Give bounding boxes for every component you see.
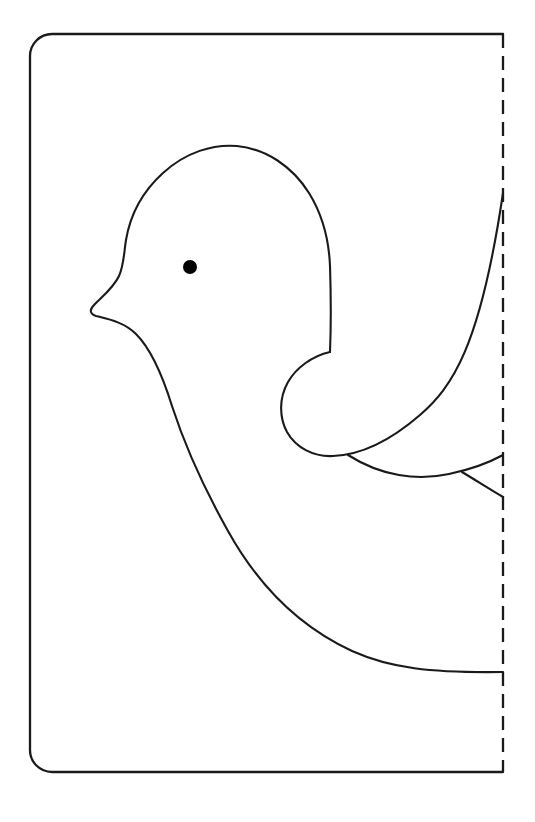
template-page xyxy=(0,0,535,822)
bird-eye-icon xyxy=(183,260,197,274)
pattern-canvas xyxy=(0,0,535,822)
